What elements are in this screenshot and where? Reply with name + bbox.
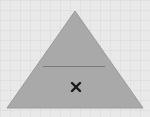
- triangle-shape[interactable]: [7, 11, 143, 108]
- triangle-body[interactable]: [7, 11, 143, 108]
- diagram-canvas[interactable]: [0, 0, 150, 117]
- diagram-svg: [0, 0, 150, 117]
